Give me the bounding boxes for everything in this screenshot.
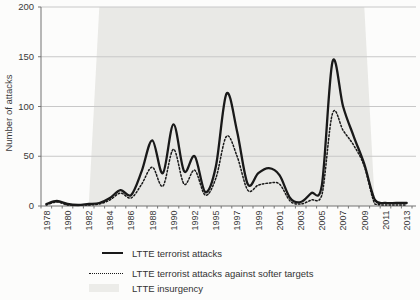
svg-text:2001: 2001: [275, 211, 285, 231]
svg-text:1986: 1986: [126, 211, 136, 231]
legend-swatch-solid-line: [89, 252, 123, 254]
svg-text:2011: 2011: [381, 211, 391, 230]
legend-swatch-dotted-line: [89, 273, 123, 274]
svg-text:1978: 1978: [42, 211, 52, 231]
y-axis-title: Number of attacks: [3, 74, 14, 151]
svg-text:1992: 1992: [190, 211, 200, 231]
svg-text:150: 150: [18, 51, 34, 62]
legend-item-softer-targets: LTTE terrorist attacks against softer ta…: [89, 267, 313, 279]
svg-text:1997: 1997: [232, 211, 242, 231]
legend-label-attacks: LTTE terrorist attacks: [132, 248, 222, 259]
legend-label-softer-targets: LTTE terrorist attacks against softer ta…: [132, 268, 313, 279]
legend-item-insurgency: LTTE insurgency: [89, 282, 203, 294]
svg-text:1980: 1980: [63, 211, 73, 231]
svg-text:2003: 2003: [296, 211, 306, 231]
svg-text:100: 100: [18, 101, 34, 112]
svg-text:1999: 1999: [254, 211, 264, 231]
svg-text:50: 50: [23, 150, 34, 161]
svg-text:1988: 1988: [148, 211, 158, 231]
svg-text:1990: 1990: [169, 211, 179, 231]
chart-figure: 0501001502001978198019821984198619881990…: [0, 0, 420, 300]
x-tick-labels: 1978198019821984198619881990199219951997…: [42, 211, 412, 231]
y-tick-labels: 050100150200: [18, 1, 34, 211]
svg-text:2009: 2009: [360, 211, 370, 231]
svg-text:2005: 2005: [317, 211, 327, 231]
legend-label-insurgency: LTTE insurgency: [132, 283, 203, 294]
svg-text:2007: 2007: [338, 211, 348, 231]
svg-text:2013: 2013: [402, 211, 412, 231]
svg-text:1995: 1995: [211, 211, 221, 231]
svg-text:1982: 1982: [84, 211, 94, 231]
legend-item-attacks: LTTE terrorist attacks: [89, 247, 222, 259]
svg-text:1984: 1984: [105, 211, 115, 231]
line-chart-plot: 0501001502001978198019821984198619881990…: [0, 0, 420, 242]
svg-text:200: 200: [18, 1, 34, 12]
legend-swatch-area-band: [89, 284, 123, 292]
svg-text:0: 0: [29, 200, 34, 211]
